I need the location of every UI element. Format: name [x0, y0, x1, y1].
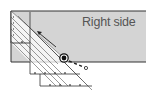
fabric-diagram: Right side [0, 0, 146, 102]
right-side-label: Right side [82, 15, 136, 29]
